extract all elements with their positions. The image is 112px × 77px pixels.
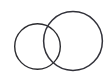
overlapping-circles-diagram: [0, 0, 112, 77]
diagram-canvas: [0, 0, 112, 77]
